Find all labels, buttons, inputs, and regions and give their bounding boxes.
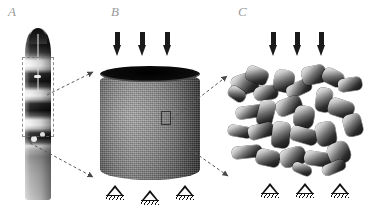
load-arrow bbox=[269, 32, 278, 56]
support-hatching bbox=[176, 196, 194, 200]
trabecular-strut bbox=[255, 148, 282, 169]
panel-c-trabecular-network bbox=[228, 64, 366, 186]
arrow-head bbox=[317, 45, 325, 56]
load-arrow bbox=[113, 32, 122, 56]
support-symbol bbox=[332, 183, 348, 198]
arrow-head bbox=[138, 45, 146, 56]
panel-b-bone-core-cylinder bbox=[100, 66, 200, 186]
arrow-shaft bbox=[165, 32, 170, 46]
support-symbol bbox=[107, 185, 123, 200]
support-hatching bbox=[106, 196, 124, 200]
support-symbol bbox=[297, 183, 313, 198]
support-triangle-inner bbox=[109, 188, 121, 195]
arrow-head bbox=[113, 45, 121, 56]
panel-b-load-arrow-group bbox=[113, 32, 183, 58]
cylinder-top-rim bbox=[100, 66, 200, 82]
support-triangle-inner bbox=[264, 186, 276, 193]
arrow-head bbox=[269, 45, 277, 56]
panel-b-roi-box bbox=[161, 111, 171, 125]
panel-label-b: B bbox=[111, 4, 119, 20]
arrow-head bbox=[163, 45, 171, 56]
support-symbol bbox=[177, 185, 193, 200]
trabecular-strut bbox=[337, 76, 363, 92]
arrow-head bbox=[293, 45, 301, 56]
load-arrow bbox=[317, 32, 326, 56]
arrow-shaft bbox=[319, 32, 324, 46]
load-arrow bbox=[138, 32, 147, 56]
support-symbol bbox=[262, 183, 278, 198]
panel-label-a: A bbox=[8, 4, 16, 20]
cylinder-surface-texture bbox=[100, 72, 200, 180]
panel-c-load-arrow-group bbox=[269, 32, 339, 58]
trabecular-strut bbox=[271, 121, 292, 149]
arrow-shaft bbox=[295, 32, 300, 46]
scientific-figure: A B C bbox=[0, 0, 376, 211]
arrow-shaft bbox=[140, 32, 145, 46]
load-arrow bbox=[163, 32, 172, 56]
support-triangle-inner bbox=[179, 188, 191, 195]
support-hatching bbox=[296, 194, 314, 198]
support-hatching bbox=[331, 194, 349, 198]
support-triangle-inner bbox=[334, 186, 346, 193]
support-triangle-inner bbox=[299, 186, 311, 193]
load-arrow bbox=[293, 32, 302, 56]
panel-label-c: C bbox=[238, 4, 247, 20]
support-hatching bbox=[261, 194, 279, 198]
panel-a-roi-box bbox=[22, 57, 54, 137]
arrow-shaft bbox=[115, 32, 120, 46]
support-hatching bbox=[141, 201, 159, 205]
support-symbol bbox=[142, 190, 158, 205]
support-triangle-inner bbox=[144, 193, 156, 200]
trabecular-strut bbox=[342, 112, 365, 138]
arrow-shaft bbox=[271, 32, 276, 46]
